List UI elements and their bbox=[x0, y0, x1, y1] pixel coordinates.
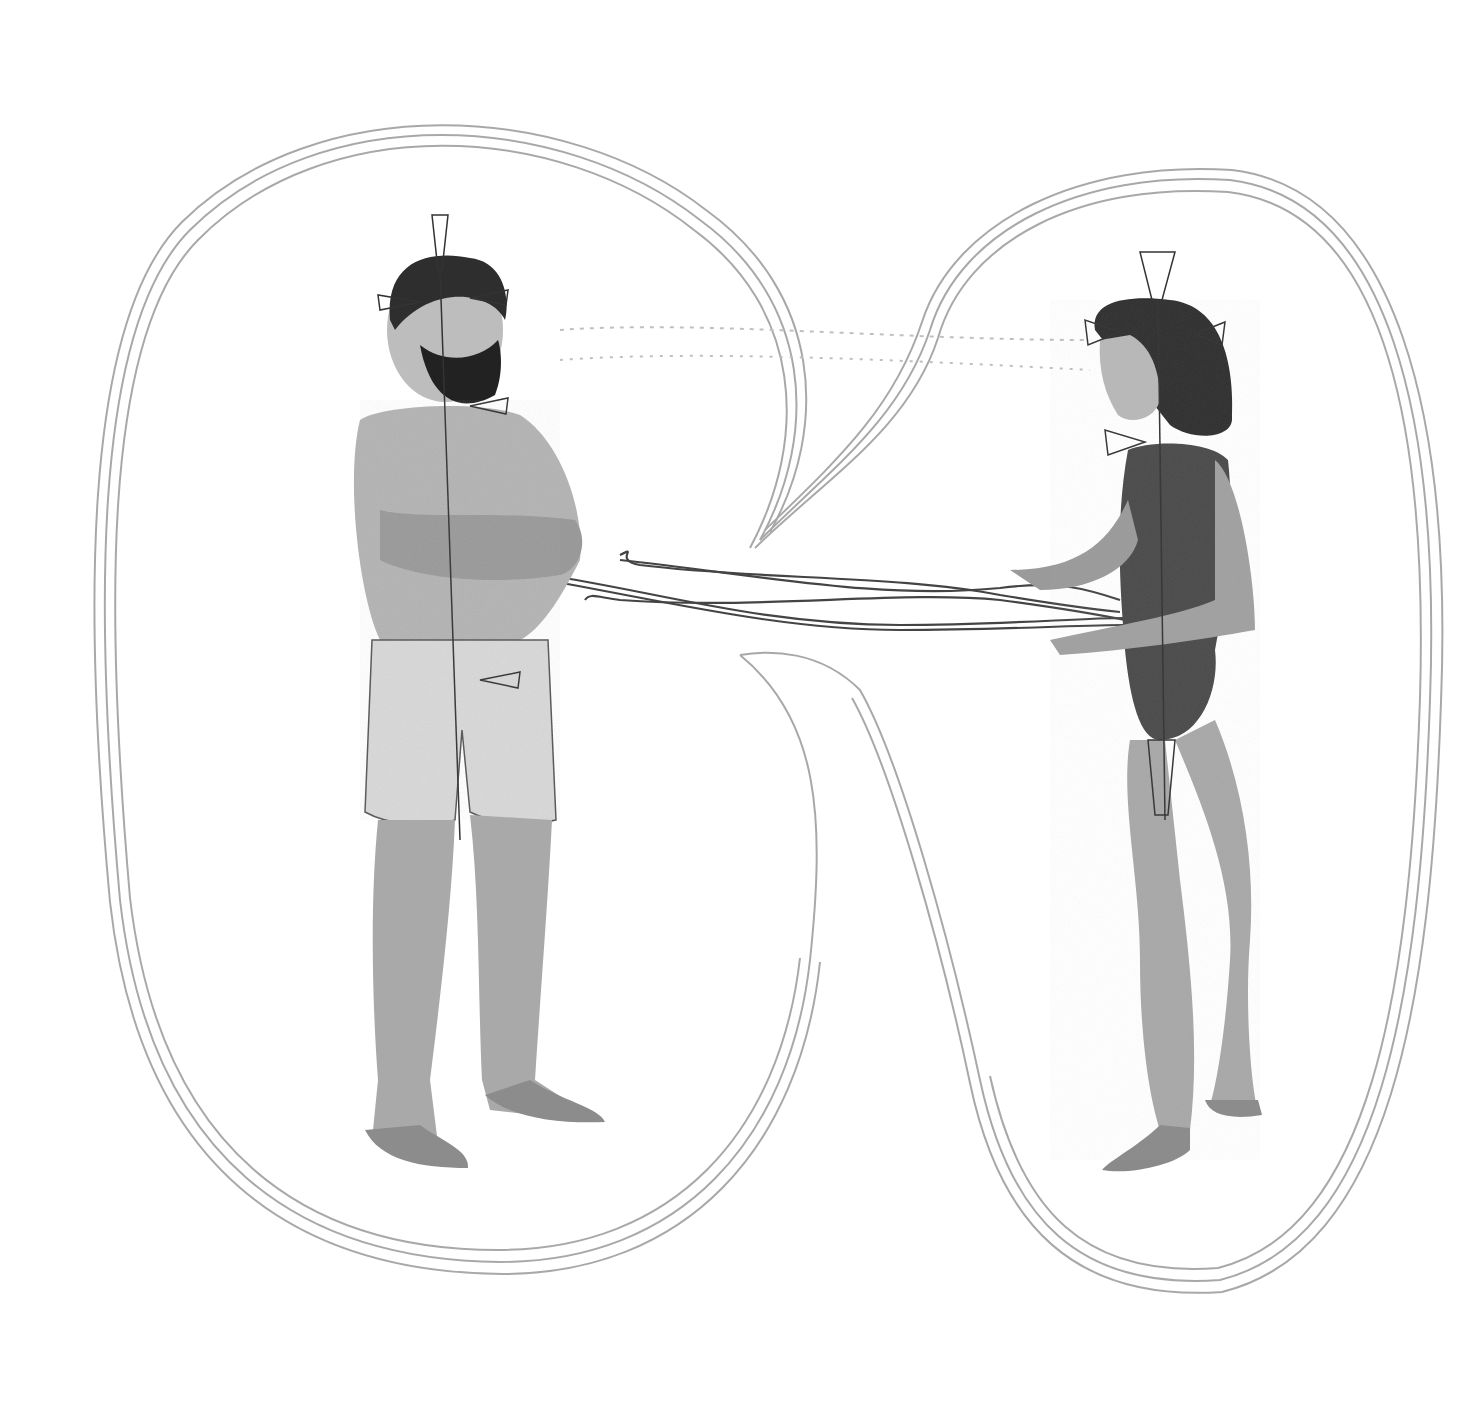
pencil-illustration bbox=[0, 0, 1483, 1416]
energy-cords bbox=[545, 552, 1125, 630]
figure-woman bbox=[1010, 252, 1262, 1171]
figure-man bbox=[354, 215, 605, 1168]
